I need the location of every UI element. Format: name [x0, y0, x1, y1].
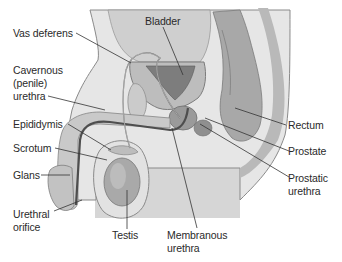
label-epididymis: Epididymis	[13, 118, 63, 130]
label-membranous-urethra-line1: Membranous	[167, 229, 227, 241]
label-bladder: Bladder	[145, 15, 181, 27]
seminal-structure	[194, 120, 212, 136]
label-rectum: Rectum	[288, 119, 324, 131]
label-urethral-orifice-line2: orifice	[13, 221, 40, 233]
label-cavernous-urethra-line3: urethra	[13, 90, 46, 102]
anatomy-illustration	[0, 0, 342, 262]
label-prostatic-urethra-line2: urethra	[288, 185, 321, 197]
label-glans: Glans	[13, 169, 40, 181]
label-urethral-orifice-line1: Urethral	[13, 208, 50, 220]
label-membranous-urethra-line2: urethra	[167, 242, 200, 254]
label-cavernous-urethra-line2: (penile)	[13, 77, 47, 89]
glans	[48, 165, 74, 210]
label-vas-deferens: Vas deferens	[13, 27, 73, 39]
anatomy-diagram: Vas deferens Bladder Cavernous (penile) …	[0, 0, 342, 262]
label-cavernous-urethra-line1: Cavernous	[13, 64, 63, 76]
label-scrotum: Scrotum	[13, 142, 51, 154]
label-prostatic-urethra-line1: Prostatic	[288, 172, 328, 184]
label-testis: Testis	[112, 229, 138, 241]
label-prostate: Prostate	[288, 145, 326, 157]
